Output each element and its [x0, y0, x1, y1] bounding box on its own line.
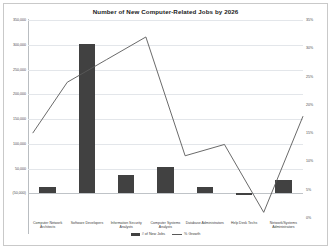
y-axis-right-tick: 35% — [306, 18, 313, 22]
category-label: Software Developers — [67, 221, 106, 225]
category-label: Computer Network Architects — [28, 221, 67, 230]
y-axis-left-tick: 200,000 — [13, 92, 26, 96]
category-label: Computer Systems Analysts — [146, 221, 185, 230]
y-axis-left-tick: 100,000 — [13, 142, 26, 146]
chart-title: Number of New Computer-Related Jobs by 2… — [4, 8, 327, 15]
y-axis-left-tick: 350,000 — [13, 18, 26, 22]
y-axis-right-tick: 15% — [306, 131, 313, 135]
category-label: Database Administrators — [185, 221, 224, 225]
y-axis-left-tick: 250,000 — [13, 68, 26, 72]
y-axis-right-tick: 20% — [306, 103, 313, 107]
y-axis-left-tick: 300,000 — [13, 43, 26, 47]
category-label: Information Security Analysts — [107, 221, 146, 230]
y-axis-right-tick: 5% — [306, 188, 311, 192]
y-axis-left-tick: (50,000) — [13, 191, 26, 195]
y-axis-left-tick: 50,000 — [15, 167, 26, 171]
y-axis-right-tick: 10% — [306, 159, 313, 163]
y-axis-left-labels: 350,000300,000250,000200,000150,000100,0… — [4, 20, 26, 218]
category-labels: Computer Network ArchitectsSoftware Deve… — [28, 20, 303, 218]
y-axis-right-tick: 25% — [306, 75, 313, 79]
y-axis-right-tick: 0% — [306, 216, 311, 220]
legend-item[interactable]: % Growth — [172, 232, 200, 236]
category-label: Help Desk Techs — [224, 221, 263, 225]
legend-bar-swatch-icon — [131, 233, 140, 236]
y-axis-left-tick: 150,000 — [13, 117, 26, 121]
legend-item[interactable]: # of New Jobs — [131, 232, 165, 236]
legend-label: # of New Jobs — [142, 232, 165, 236]
legend-line-swatch-icon — [172, 234, 182, 235]
chart-container: Number of New Computer-Related Jobs by 2… — [3, 3, 328, 246]
legend-label: % Growth — [184, 232, 200, 236]
category-label: Network/Systems Administrators — [264, 221, 303, 230]
chart-legend: # of New Jobs% Growth — [4, 232, 327, 236]
y-axis-right-labels: 35%30%25%20%15%10%5%0% — [304, 20, 330, 218]
y-axis-right-tick: 30% — [306, 46, 313, 50]
